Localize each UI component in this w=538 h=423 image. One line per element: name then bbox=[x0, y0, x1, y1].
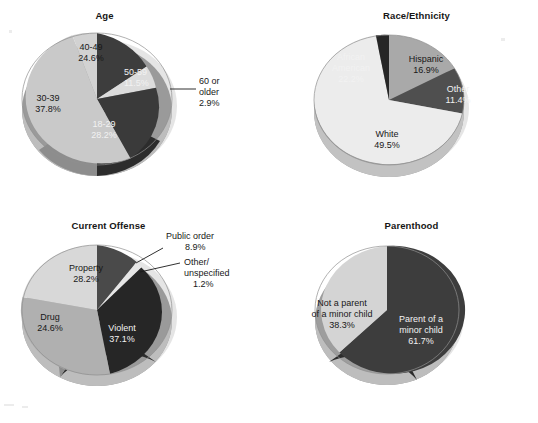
slice-label-parenthood-parent-name2: minor child bbox=[399, 325, 443, 335]
slice-label-race-aa-pct: 22.2% bbox=[338, 74, 364, 84]
slice-label-age-60-name: 60 or bbox=[199, 76, 220, 86]
slice-label-race-other-pct: 11.4% bbox=[446, 95, 471, 105]
slice-label-offense-public-order-pct: 8.9% bbox=[185, 242, 206, 252]
slice-label-offense-violent-name: Violent bbox=[108, 323, 136, 333]
leader-line-public-order bbox=[136, 248, 163, 263]
slice-label-parenthood-not-name: Not a parent bbox=[317, 298, 367, 308]
pie-chart-race: African American 22.2% Hispanic 16.9% Ot… bbox=[269, 0, 538, 211]
chart-panel-offense: Current Offense bbox=[0, 211, 269, 423]
slice-label-race-white-pct: 49.5% bbox=[374, 140, 400, 150]
slice-label-offense-drug-pct: 24.6% bbox=[37, 323, 63, 333]
slice-label-offense-other-name2: unspecified bbox=[184, 268, 230, 278]
slice-label-age-40-49-name: 40-49 bbox=[79, 42, 102, 52]
slice-label-offense-other-name: Other/ bbox=[184, 257, 210, 267]
slice-label-age-18-29-name: 18-29 bbox=[92, 119, 115, 129]
slice-label-race-hispanic-pct: 16.9% bbox=[413, 65, 439, 75]
slice-label-offense-violent-pct: 37.1% bbox=[109, 334, 135, 344]
slice-label-parenthood-not-name2: of a minor child bbox=[311, 309, 372, 319]
slice-label-age-60-pct: 2.9% bbox=[199, 98, 220, 108]
pie-chart-age: 40-49 24.6% 50-59 11.5% 60 or older 2.9%… bbox=[0, 0, 269, 211]
chart-panel-parenthood: Parenthood Not a parent of a minor child… bbox=[269, 211, 538, 423]
slice-label-age-50-59-pct: 11.5% bbox=[124, 78, 149, 88]
slice-label-age-30-39-name: 30-39 bbox=[36, 93, 59, 103]
slice-label-offense-public-order-name: Public order bbox=[166, 231, 214, 241]
slice-label-parenthood-not-pct: 38.3% bbox=[329, 320, 355, 330]
pie-chart-grid: Age bbox=[0, 0, 538, 423]
slice-label-offense-property-name: Property bbox=[69, 263, 104, 273]
slice-label-parenthood-parent-name: Parent of a bbox=[399, 314, 443, 324]
slice-label-age-18-29-pct: 28.2% bbox=[91, 130, 117, 140]
slice-label-race-white-name: White bbox=[375, 129, 398, 139]
slice-label-offense-property-pct: 28.2% bbox=[73, 274, 99, 284]
chart-panel-race: Race/Ethnicity African American 22.2% bbox=[269, 0, 538, 211]
slice-label-race-aa-name: African bbox=[337, 52, 365, 62]
slice-label-offense-drug-name: Drug bbox=[40, 312, 60, 322]
slice-label-age-50-59-name: 50-59 bbox=[124, 67, 147, 77]
slice-label-age-30-39-pct: 37.8% bbox=[35, 104, 61, 114]
slice-label-parenthood-parent-pct: 61.7% bbox=[408, 336, 434, 346]
chart-panel-age: Age bbox=[0, 0, 269, 211]
slice-label-offense-other-pct: 1.2% bbox=[193, 279, 214, 289]
scan-artifact bbox=[22, 406, 28, 408]
slice-label-race-aa-name2: American bbox=[332, 63, 370, 73]
slice-label-race-other-name: Other bbox=[447, 84, 470, 94]
slice-label-race-hispanic-name: Hispanic bbox=[409, 54, 444, 64]
pie-chart-parenthood: Not a parent of a minor child 38.3% Pare… bbox=[269, 211, 538, 423]
slice-label-age-40-49-pct: 24.6% bbox=[78, 53, 104, 63]
slice-label-age-60-name2: older bbox=[199, 87, 219, 97]
scan-artifact bbox=[9, 30, 12, 33]
scan-artifact bbox=[4, 404, 14, 406]
scan-artifact bbox=[501, 38, 505, 41]
pie-chart-offense: Property 28.2% Public order 8.9% Other/ … bbox=[0, 211, 269, 423]
